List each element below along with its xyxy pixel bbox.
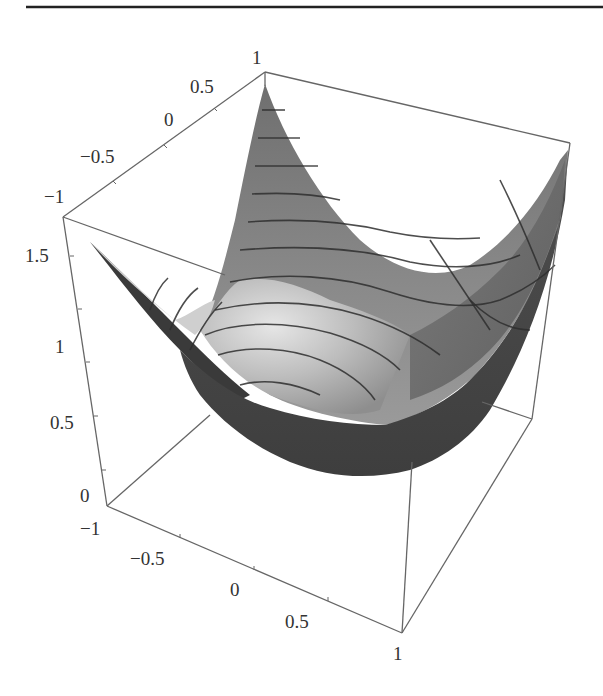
surface-plot-figure: −1 −0.5 0 0.5 1 1.5 1 0.5 0 −1 −0.5 0 0.… xyxy=(0,0,603,696)
bottom-axis-label: −0.5 xyxy=(130,548,164,569)
z-axis-label: 0 xyxy=(80,485,90,506)
bottom-axis-label: 0 xyxy=(230,579,240,600)
top-axis-labels: −1 −0.5 0 0.5 1 xyxy=(44,47,262,207)
z-axis-labels: 1.5 1 0.5 0 xyxy=(25,245,90,506)
top-axis-label: 1 xyxy=(252,47,262,68)
bottom-axis-labels: −1 −0.5 0 0.5 1 xyxy=(80,518,403,664)
top-axis-label: −1 xyxy=(44,186,64,207)
top-axis-label: 0.5 xyxy=(190,76,214,97)
z-axis-label: 1 xyxy=(55,336,65,357)
z-axis-label: 1.5 xyxy=(25,245,49,266)
bottom-axis-label: 0.5 xyxy=(285,611,309,632)
z-axis-label: 0.5 xyxy=(50,412,74,433)
top-axis-label: 0 xyxy=(164,109,174,130)
bottom-axis-label: 1 xyxy=(393,643,403,664)
top-axis-label: −0.5 xyxy=(80,146,114,167)
bottom-axis-label: −1 xyxy=(80,518,100,539)
surface xyxy=(90,84,568,476)
